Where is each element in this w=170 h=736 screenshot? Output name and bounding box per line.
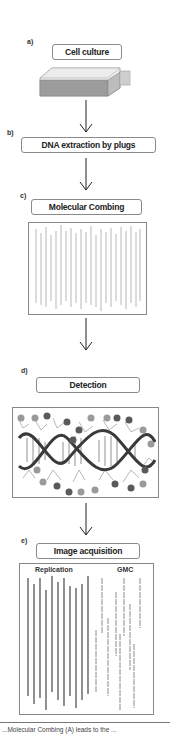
dna-helix-with-probes: [13, 408, 158, 497]
caption-divider: [0, 722, 170, 723]
down-arrow-icon: [79, 100, 93, 134]
step-label-molecular-combing: Molecular Combing: [31, 199, 142, 215]
combed-dna-fibers: [29, 223, 146, 314]
step-label-detection: Detection: [36, 377, 140, 393]
gmc-label: GMC: [117, 566, 133, 573]
down-arrow-icon: [79, 318, 93, 352]
fiber-images-panel: Replication GMC: [19, 563, 154, 715]
fiber-images: [20, 564, 153, 714]
figure-caption-fragment: ...Molecular Combing (A) leads to the ..…: [2, 726, 117, 733]
step-label-dna-extraction: DNA extraction by plugs: [21, 137, 156, 153]
down-arrow-icon: [79, 503, 93, 537]
step-letter-c: c): [20, 192, 26, 199]
replication-label: Replication: [35, 566, 73, 573]
step-letter-d: d): [21, 367, 28, 374]
step-label-image-acquisition: Image acquisition: [36, 543, 140, 559]
combed-dna-fibers-panel: [28, 222, 147, 315]
dna-helix-panel: [12, 407, 159, 498]
step-letter-a: a): [27, 38, 33, 45]
step-letter-e: e): [21, 537, 27, 544]
step-letter-b: b): [7, 129, 14, 136]
down-arrow-icon: [79, 158, 93, 192]
cell-culture-flask-icon: [36, 66, 140, 100]
step-label-cell-culture: Cell culture: [52, 44, 122, 60]
